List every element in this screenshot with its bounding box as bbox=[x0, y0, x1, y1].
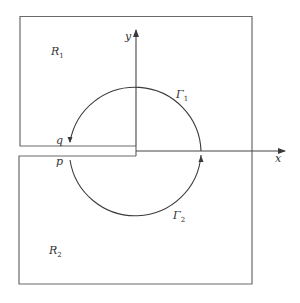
x-axis-label: x bbox=[275, 152, 282, 165]
point-p-label: p bbox=[56, 155, 63, 168]
region-r2-boundary bbox=[19, 151, 252, 284]
point-q-label: q bbox=[56, 134, 63, 147]
contour-gamma-1-label: Γ1 bbox=[175, 88, 188, 103]
region-r1-label: R1 bbox=[50, 45, 64, 60]
gamma-1-arrow-icon bbox=[68, 137, 73, 143]
contour-gamma-2 bbox=[70, 155, 201, 216]
region-r2-label: R2 bbox=[48, 244, 62, 259]
contour-diagram: y x R1 R2 Γ1 Γ2 q p bbox=[0, 0, 300, 303]
gamma-2-arrow-icon bbox=[199, 156, 204, 163]
contour-gamma-2-label: Γ2 bbox=[172, 209, 185, 224]
y-axis-label: y bbox=[124, 30, 132, 43]
